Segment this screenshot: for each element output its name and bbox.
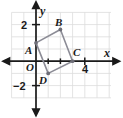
x-tick-label-4: 4 (82, 64, 88, 75)
vertex-c-dot (71, 59, 75, 63)
vertex-a-dot (34, 41, 38, 45)
quadrilateral-abcd (36, 30, 73, 74)
y-axis-arrow-down (33, 109, 39, 116)
vertex-label-d: D (39, 75, 47, 86)
y-axis-label: y (40, 5, 45, 17)
y-axis-arrow-up (33, 2, 39, 9)
vertex-label-b: B (55, 17, 62, 28)
x-axis-label: x (104, 47, 110, 59)
origin-label: O (26, 62, 34, 73)
x-axis-arrow-left (3, 58, 10, 64)
y-tick-label-neg2: −2 (13, 81, 26, 92)
vertex-label-a: A (25, 45, 32, 56)
x-axis-arrow-right (113, 58, 120, 64)
vertex-label-c: C (73, 47, 80, 58)
vertex-b-dot (59, 28, 63, 32)
y-tick-label-2: 2 (21, 20, 27, 31)
